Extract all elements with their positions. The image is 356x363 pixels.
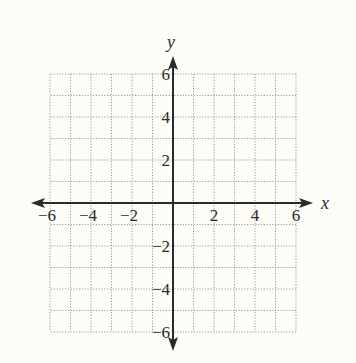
x-tick-label: 6 (292, 206, 301, 225)
x-tick-label: 2 (210, 206, 219, 225)
y-tick-label: −4 (152, 280, 171, 299)
y-tick-label: −6 (152, 323, 170, 342)
x-tick-label: −2 (120, 206, 138, 225)
coordinate-plane: x y −6−4−2246 642−2−4−6 (0, 0, 356, 363)
y-tick-label: 6 (162, 65, 171, 84)
y-tick-label: −2 (152, 237, 170, 256)
x-tick-label: −4 (79, 206, 98, 225)
x-tick-label: 4 (251, 206, 260, 225)
y-tick-label: 4 (162, 108, 171, 127)
x-tick-label: −6 (38, 206, 56, 225)
axes (31, 56, 313, 351)
x-axis-label: x (320, 193, 329, 213)
y-axis-label: y (165, 32, 175, 52)
y-tick-label: 2 (162, 151, 171, 170)
x-tick-labels: −6−4−2246 (38, 206, 300, 225)
